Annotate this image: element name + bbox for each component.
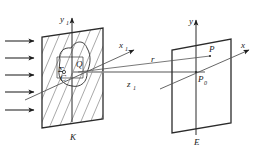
ray-vector-label: r bbox=[151, 54, 155, 64]
axial-point-label-sub: 0 bbox=[204, 80, 207, 86]
observation-point-label: P bbox=[208, 44, 215, 54]
point-p0-marker bbox=[195, 71, 197, 73]
x1-axis-label: x bbox=[118, 40, 123, 50]
axial-point-label: P bbox=[197, 74, 204, 84]
z1-axis-label-sub: 1 bbox=[133, 85, 136, 91]
point-p-marker bbox=[209, 55, 211, 57]
y-axis-label: y bbox=[188, 16, 193, 26]
center-point-label: C bbox=[60, 73, 67, 83]
z1-axis-label: z bbox=[126, 79, 131, 89]
diffraction-diagram-figure: y 1 x 1 z 1 y x Σ C Q r P P 0 bbox=[0, 0, 259, 150]
plane-label: E bbox=[193, 137, 200, 147]
screen-label: K bbox=[69, 132, 77, 142]
y1-axis-label: y bbox=[59, 14, 64, 24]
source-point-label: Q bbox=[76, 59, 83, 69]
x1-axis-label-sub: 1 bbox=[125, 46, 128, 52]
figure-background bbox=[0, 0, 259, 150]
x-axis-label: x bbox=[240, 40, 245, 50]
diagram-canvas: y 1 x 1 z 1 y x Σ C Q r P P 0 bbox=[0, 0, 259, 150]
y1-axis-label-sub: 1 bbox=[66, 20, 69, 26]
